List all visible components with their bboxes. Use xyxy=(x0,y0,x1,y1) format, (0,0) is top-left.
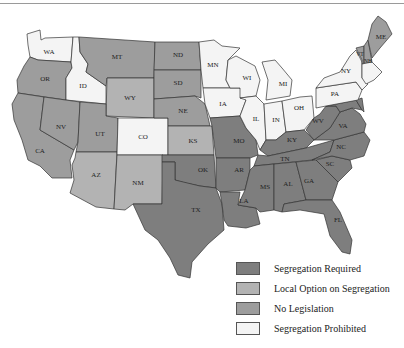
legend-label: Local Option on Segregation xyxy=(274,283,390,294)
svg-text:WA: WA xyxy=(44,48,55,56)
state-az xyxy=(70,152,117,209)
legend-item-required: Segregation Required xyxy=(236,258,390,278)
svg-text:SC: SC xyxy=(326,160,335,168)
svg-text:ND: ND xyxy=(173,51,183,59)
svg-text:CA: CA xyxy=(35,147,45,155)
svg-text:NY: NY xyxy=(341,67,351,75)
state-wa xyxy=(27,30,73,62)
svg-text:IA: IA xyxy=(219,100,226,108)
legend-item-local-option: Local Option on Segregation xyxy=(236,278,390,298)
svg-text:OR: OR xyxy=(40,75,50,83)
svg-text:WV: WV xyxy=(312,117,324,125)
legend-swatch xyxy=(236,322,260,335)
svg-text:LA: LA xyxy=(239,197,248,205)
state-southern-new-england xyxy=(362,62,382,84)
legend-swatch xyxy=(236,262,260,275)
svg-text:VA: VA xyxy=(338,122,347,130)
svg-text:KS: KS xyxy=(189,137,198,145)
svg-text:AZ: AZ xyxy=(91,171,100,179)
svg-text:ME: ME xyxy=(376,33,387,41)
svg-text:CO: CO xyxy=(138,133,148,141)
svg-text:KY: KY xyxy=(287,136,297,144)
svg-text:MO: MO xyxy=(233,137,244,145)
legend-label: Segregation Required xyxy=(274,263,361,274)
legend-item-prohibited: Segregation Prohibited xyxy=(236,318,390,338)
svg-text:MS: MS xyxy=(260,183,270,191)
svg-text:NC: NC xyxy=(336,143,346,151)
svg-text:WI: WI xyxy=(243,74,253,82)
svg-text:NH: NH xyxy=(364,58,372,64)
svg-text:NM: NM xyxy=(132,179,144,187)
svg-text:AL: AL xyxy=(283,180,292,188)
svg-text:PA: PA xyxy=(331,90,339,98)
legend-label: Segregation Prohibited xyxy=(274,323,366,334)
map-legend: Segregation Required Local Option on Seg… xyxy=(236,258,390,338)
state-fl xyxy=(282,200,352,254)
svg-text:FL: FL xyxy=(334,216,342,224)
svg-text:GA: GA xyxy=(304,177,314,185)
state-mi xyxy=(262,60,292,100)
svg-text:TX: TX xyxy=(191,206,200,214)
svg-text:IN: IN xyxy=(272,116,279,124)
svg-text:TN: TN xyxy=(280,155,289,163)
svg-text:WY: WY xyxy=(124,94,136,102)
legend-label: No Legislation xyxy=(274,303,334,314)
svg-text:MT: MT xyxy=(112,53,123,61)
legend-swatch xyxy=(236,282,260,295)
svg-text:MI: MI xyxy=(279,80,288,88)
svg-text:UT: UT xyxy=(95,130,105,138)
svg-text:VT: VT xyxy=(356,51,364,57)
svg-text:OK: OK xyxy=(198,166,208,174)
svg-text:NV: NV xyxy=(56,123,66,131)
svg-text:AR: AR xyxy=(234,166,244,174)
svg-text:OH: OH xyxy=(294,104,304,112)
legend-item-no-legislation: No Legislation xyxy=(236,298,390,318)
svg-text:MN: MN xyxy=(207,61,218,69)
legend-swatch xyxy=(236,302,260,315)
svg-text:ID: ID xyxy=(79,82,86,90)
state-ar xyxy=(216,158,250,192)
svg-text:NE: NE xyxy=(178,107,187,115)
svg-text:SD: SD xyxy=(174,79,183,87)
svg-text:IL: IL xyxy=(253,115,260,123)
